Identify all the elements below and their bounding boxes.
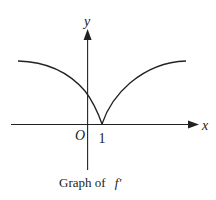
- f-prime-curve-right: [102, 61, 186, 124]
- y-axis-arrow-icon: [84, 29, 92, 40]
- f-prime-curve-left: [18, 61, 102, 124]
- caption-prefix: Graph of: [59, 175, 106, 190]
- origin-label: O: [75, 128, 85, 143]
- x-axis-label: x: [201, 118, 209, 133]
- tick-label-1: 1: [99, 131, 106, 146]
- caption: Graph of f′: [59, 175, 121, 190]
- caption-function: f′: [115, 175, 122, 190]
- derivative-graph: y x O 1 Graph of f′: [0, 0, 216, 200]
- y-axis-label: y: [82, 14, 91, 29]
- x-axis-arrow-icon: [188, 121, 199, 129]
